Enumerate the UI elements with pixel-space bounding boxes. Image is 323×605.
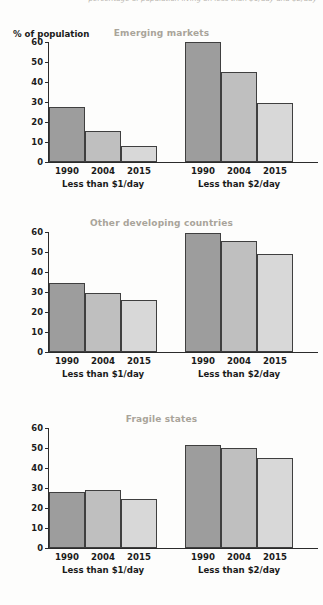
bar-2004 xyxy=(85,490,121,548)
x-axis-tick-label: 1990 xyxy=(55,166,79,176)
y-axis-tick-label: 40 xyxy=(23,463,43,473)
x-axis-tick-label: 2004 xyxy=(91,166,115,176)
bar-2004 xyxy=(221,448,257,548)
y-axis-tick-mark xyxy=(45,122,48,123)
y-axis-tick-label: 30 xyxy=(23,97,43,107)
x-axis-tick-label: 2015 xyxy=(263,166,287,176)
bar-1990 xyxy=(185,233,221,352)
x-axis-tick-label: 1990 xyxy=(55,552,79,562)
y-axis-tick-mark xyxy=(45,232,48,233)
y-axis-tick-label: 30 xyxy=(23,483,43,493)
bar-group-label: Less than $2/day xyxy=(198,369,280,379)
bar-2015 xyxy=(257,103,293,162)
bar-2004 xyxy=(221,72,257,162)
y-axis-tick-mark xyxy=(45,332,48,333)
bar-1990 xyxy=(185,42,221,162)
y-axis-tick-mark xyxy=(45,42,48,43)
y-axis-tick-mark xyxy=(45,82,48,83)
y-axis-tick-mark xyxy=(45,488,48,489)
bar-group-label: Less than $1/day xyxy=(62,565,144,575)
y-axis-tick-mark xyxy=(45,312,48,313)
x-axis-tick-label: 2015 xyxy=(127,552,151,562)
x-axis-tick-label: 1990 xyxy=(55,356,79,366)
y-axis-tick-label: 0 xyxy=(23,157,43,167)
x-axis-tick-label: 2004 xyxy=(227,552,251,562)
bar-group-label: Less than $1/day xyxy=(62,179,144,189)
y-axis-tick-mark xyxy=(45,62,48,63)
x-axis-tick-label: 2004 xyxy=(91,552,115,562)
y-axis-tick-label: 10 xyxy=(23,137,43,147)
y-axis-tick-mark xyxy=(45,102,48,103)
x-axis-line xyxy=(48,548,318,549)
x-axis-tick-label: 2015 xyxy=(127,166,151,176)
x-axis-tick-label: 1990 xyxy=(191,356,215,366)
y-axis-tick-label: 60 xyxy=(23,37,43,47)
y-axis-tick-label: 10 xyxy=(23,523,43,533)
y-axis-tick-label: 40 xyxy=(23,267,43,277)
y-axis-tick-label: 60 xyxy=(23,423,43,433)
bar-2015 xyxy=(257,458,293,548)
y-axis-tick-label: 50 xyxy=(23,247,43,257)
chart-title: Other developing countries xyxy=(0,217,323,230)
y-axis-tick-label: 0 xyxy=(23,347,43,357)
bar-2015 xyxy=(257,254,293,352)
bar-2004 xyxy=(221,241,257,352)
bar-2015 xyxy=(121,300,157,352)
bar-group-label: Less than $1/day xyxy=(62,369,144,379)
y-axis-tick-label: 0 xyxy=(23,543,43,553)
bar-2015 xyxy=(121,146,157,162)
bar-1990 xyxy=(49,492,85,548)
y-axis-tick-mark xyxy=(45,162,48,163)
y-axis-tick-mark xyxy=(45,548,48,549)
x-axis-tick-label: 2015 xyxy=(263,552,287,562)
y-axis-tick-mark xyxy=(45,352,48,353)
y-axis-tick-mark xyxy=(45,468,48,469)
y-axis-tick-label: 10 xyxy=(23,327,43,337)
y-axis-tick-mark xyxy=(45,508,48,509)
x-axis-tick-label: 2004 xyxy=(227,166,251,176)
y-axis-tick-mark xyxy=(45,272,48,273)
x-axis-tick-label: 2015 xyxy=(127,356,151,366)
y-axis-tick-mark xyxy=(45,252,48,253)
y-axis-tick-label: 30 xyxy=(23,287,43,297)
bar-2004 xyxy=(85,131,121,162)
y-axis-tick-label: 20 xyxy=(23,503,43,513)
y-axis-tick-label: 40 xyxy=(23,77,43,87)
chart-title: Fragile states xyxy=(0,413,323,426)
x-axis-tick-label: 2015 xyxy=(263,356,287,366)
y-axis-tick-label: 50 xyxy=(23,57,43,67)
x-axis-tick-label: 1990 xyxy=(191,166,215,176)
y-axis-tick-mark xyxy=(45,428,48,429)
y-axis-tick-label: 60 xyxy=(23,227,43,237)
x-axis-line xyxy=(48,162,318,163)
bar-group-label: Less than $2/day xyxy=(198,179,280,189)
x-axis-tick-label: 2004 xyxy=(227,356,251,366)
bar-1990 xyxy=(49,107,85,162)
y-axis-tick-mark xyxy=(45,292,48,293)
bar-group-label: Less than $2/day xyxy=(198,565,280,575)
y-axis-tick-mark xyxy=(45,528,48,529)
y-axis-tick-label: 20 xyxy=(23,307,43,317)
y-axis-tick-mark xyxy=(45,142,48,143)
bar-1990 xyxy=(49,283,85,352)
y-axis-tick-label: 20 xyxy=(23,117,43,127)
y-axis-tick-label: 50 xyxy=(23,443,43,453)
bar-2015 xyxy=(121,499,157,548)
x-axis-line xyxy=(48,352,318,353)
page-caption: percentage of population living on less … xyxy=(0,0,323,6)
x-axis-tick-label: 1990 xyxy=(191,552,215,562)
y-axis-tick-mark xyxy=(45,448,48,449)
x-axis-tick-label: 2004 xyxy=(91,356,115,366)
bar-1990 xyxy=(185,445,221,548)
bar-2004 xyxy=(85,293,121,352)
